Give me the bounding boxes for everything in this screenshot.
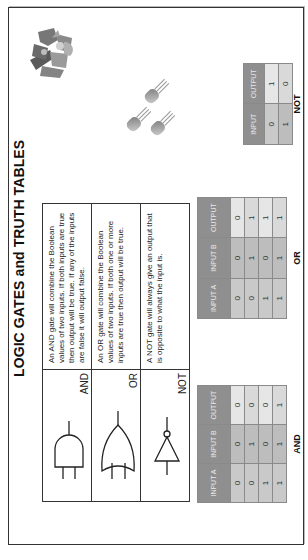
column-header: OUTPUT <box>198 386 231 425</box>
cell: 1 <box>273 425 287 464</box>
column-header: INPUT A <box>198 278 231 318</box>
cell: 0 <box>259 425 273 464</box>
cell: 0 <box>231 198 245 238</box>
not-truth-table: INPUT OUTPUT 0 1 1 0 <box>243 63 293 145</box>
cell: 1 <box>259 278 273 318</box>
gate-label-and: AND <box>79 373 90 394</box>
and-gate-icon <box>47 393 91 483</box>
cell: 1 <box>273 464 287 503</box>
cell: 0 <box>231 278 245 318</box>
cell: 1 <box>265 64 279 105</box>
transistors-icon <box>118 70 182 140</box>
cell: 1 <box>245 425 259 464</box>
gate-label-or: OR <box>128 373 139 388</box>
or-gate-icon <box>96 393 140 483</box>
cell: 1 <box>259 464 273 503</box>
gate-label-not: NOT <box>177 373 188 394</box>
gate-row-and: AND An AND gate will combine the Boolean… <box>43 204 92 502</box>
table-row: 1 1 1 <box>273 198 287 319</box>
cell: 0 <box>231 464 245 503</box>
table-row: 1 0 <box>279 64 293 145</box>
cell: 1 <box>245 238 259 278</box>
gate-description-table: AND An AND gate will combine the Boolean… <box>42 203 190 502</box>
truth-table-header: INPUT OUTPUT <box>244 64 265 145</box>
cell: 1 <box>279 104 293 145</box>
cell: 1 <box>273 238 287 278</box>
page-title: LOGIC GATES and TRUTH TABLES <box>11 140 27 377</box>
cell: 1 <box>273 278 287 318</box>
cell: 0 <box>279 64 293 105</box>
column-header: OUTPUT <box>244 64 265 105</box>
cell: 0 <box>245 464 259 503</box>
cell: 0 <box>231 238 245 278</box>
column-header: INPUT <box>244 104 265 145</box>
table-row: 1 0 0 <box>259 386 273 503</box>
gate-description-not: A NOT gate will always give an output th… <box>141 204 190 370</box>
gate-symbol-cell: AND <box>43 370 92 502</box>
column-header: INPUT B <box>198 425 231 464</box>
and-truth-table: INPUT A INPUT B OUTPUT 0 0 0 0 1 0 1 0 0… <box>197 385 287 503</box>
cell: 0 <box>245 278 259 318</box>
not-gate-icon <box>145 393 189 483</box>
puzzle-pieces-icon <box>20 20 86 86</box>
cell: 0 <box>231 425 245 464</box>
gate-description-or: An OR gate will combine the Boolean valu… <box>92 204 141 370</box>
cell: 1 <box>259 198 273 238</box>
or-truth-table: INPUT A INPUT B OUTPUT 0 0 0 0 1 1 1 0 1… <box>197 197 287 319</box>
cell: 0 <box>259 238 273 278</box>
cell: 0 <box>245 386 259 425</box>
table-row: 0 1 1 <box>245 198 259 319</box>
cell: 1 <box>273 198 287 238</box>
table-row: 1 1 1 <box>273 386 287 503</box>
cell: 0 <box>259 386 273 425</box>
column-header: OUTPUT <box>198 198 231 238</box>
column-header: INPUT B <box>198 238 231 278</box>
worksheet-page: LOGIC GATES and TRUTH TABLES AND An AND … <box>0 0 308 560</box>
not-table-caption: NOT <box>292 63 302 145</box>
gate-row-not: NOT A NOT gate will always give an outpu… <box>141 204 190 502</box>
table-row: 0 0 0 <box>231 386 245 503</box>
table-row: 0 0 0 <box>231 198 245 319</box>
table-row: 0 1 0 <box>245 386 259 503</box>
cell: 0 <box>231 386 245 425</box>
gate-row-or: OR An OR gate will combine the Boolean v… <box>92 204 141 502</box>
or-table-caption: OR <box>292 197 302 319</box>
gate-symbol-cell: NOT <box>141 370 190 502</box>
table-row: 1 0 1 <box>259 198 273 319</box>
cell: 1 <box>273 386 287 425</box>
truth-table-header: INPUT A INPUT B OUTPUT <box>198 198 231 319</box>
truth-table-header: INPUT A INPUT B OUTPUT <box>198 386 231 503</box>
gate-description-and: An AND gate will combine the Boolean val… <box>43 204 92 370</box>
and-table-caption: AND <box>292 385 302 503</box>
cell: 1 <box>245 198 259 238</box>
column-header: INPUT A <box>198 464 231 503</box>
gate-symbol-cell: OR <box>92 370 141 502</box>
cell: 0 <box>265 104 279 145</box>
table-row: 0 1 <box>265 64 279 145</box>
